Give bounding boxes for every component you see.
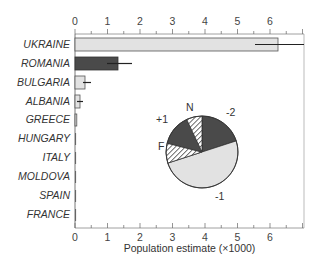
category-label-bulgaria: BULGARIA (17, 76, 70, 88)
bar-greece (75, 114, 77, 126)
bar-ukraine (75, 38, 278, 51)
pie-label-minus1: -1 (215, 190, 224, 202)
category-label-italy: ITALY (43, 151, 70, 163)
pie-label-n: N (186, 101, 194, 113)
bottom-axis-ticks (75, 223, 303, 228)
category-label-france: FRANCE (27, 208, 70, 220)
top-tick-label-3: 3 (170, 15, 176, 27)
category-label-spain: SPAIN (39, 189, 70, 201)
category-label-ukraine: UKRAINE (23, 38, 70, 50)
top-tick-label-4: 4 (202, 15, 208, 27)
top-tick-label-6: 6 (267, 15, 273, 27)
category-label-hungary: HUNGARY (18, 132, 70, 144)
top-tick-label-2: 2 (137, 15, 143, 27)
pie-chart (166, 116, 238, 188)
x-axis-label: Population estimate (×1000) (75, 242, 304, 254)
top-tick-label-1: 1 (105, 15, 111, 27)
pie-label-f: F (158, 140, 164, 152)
top-axis-ticks (75, 29, 303, 34)
category-label-romania: ROMANIA (21, 57, 70, 69)
top-tick-label-5: 5 (235, 15, 241, 27)
pie-label-minus2: -2 (226, 106, 235, 118)
category-label-moldova: MOLDOVA (18, 170, 70, 182)
pie-label-plus1: +1 (156, 113, 168, 125)
top-tick-label-0: 0 (72, 15, 78, 27)
category-label-albania: ALBANIA (26, 95, 70, 107)
category-label-greece: GREECE (26, 113, 70, 125)
